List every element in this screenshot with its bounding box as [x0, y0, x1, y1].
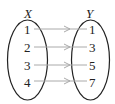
y-element-3: 3 — [89, 40, 96, 55]
arrow-4-to-7 — [34, 78, 87, 84]
set-label-y: Y — [86, 6, 95, 21]
y-element-7: 7 — [89, 75, 96, 90]
x-element-4: 4 — [24, 75, 31, 90]
x-element-3: 3 — [24, 58, 31, 73]
x-element-1: 1 — [24, 22, 31, 37]
mapping-diagram: X Y 1 2 3 4 1 3 5 7 — [0, 0, 115, 104]
x-element-2: 2 — [24, 40, 31, 55]
arrow-3-to-5 — [34, 62, 87, 68]
y-element-5: 5 — [89, 58, 96, 73]
arrow-2-to-3 — [34, 44, 87, 50]
y-element-1: 1 — [89, 22, 96, 37]
set-label-x: X — [23, 6, 33, 21]
mapping-arrows — [34, 26, 87, 84]
